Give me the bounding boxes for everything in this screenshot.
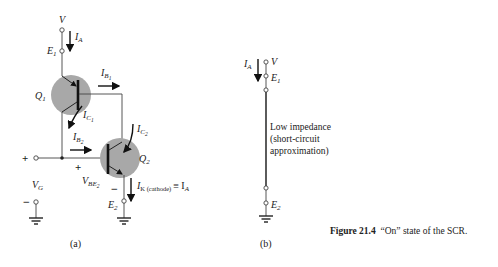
figure-number: Figure 21.4 [330, 226, 376, 236]
q2-transistor-shading [100, 138, 140, 178]
gate-terminal [34, 156, 38, 160]
ic1-label: IC1 [82, 109, 94, 123]
anode-current-label: IA [243, 58, 252, 71]
ground-icon [117, 218, 131, 224]
ib2-label: IB2 [72, 131, 84, 145]
vbe2-label: VBE2 [82, 175, 100, 189]
short-circuit-bottom-node [264, 186, 268, 190]
panel-b-label: (b) [260, 238, 272, 250]
e2-terminal [122, 199, 126, 203]
cathode-current-label: IK (cathode)≡ IA [136, 180, 190, 193]
e2-label: E2 [107, 199, 118, 212]
supply-label: V [59, 14, 67, 25]
gate-return-terminal [34, 200, 38, 204]
ground-icon [29, 218, 43, 224]
figure-caption: Figure 21.4 “On” state of the SCR. [330, 226, 490, 237]
e1-label: E1 [270, 72, 281, 85]
e1-terminal [264, 74, 268, 78]
impedance-note-line-3: approximation) [270, 146, 329, 157]
panel-a: V E1 IA Q1 IB1 IC1 IB2 + VG − [22, 14, 190, 250]
e2-terminal [264, 201, 268, 205]
supply-terminal [264, 60, 268, 64]
figure-title: “On” state of the SCR. [381, 226, 468, 236]
vbe2-minus-sign: − [111, 182, 118, 196]
e1-label: E1 [46, 45, 57, 58]
vbe2-plus-sign: + [75, 161, 81, 173]
junction-node [60, 156, 64, 160]
vg-label: VG [32, 179, 43, 192]
supply-label: V [271, 56, 279, 67]
panel-b: IA V E1 Low impedance (short-circuit app… [243, 56, 331, 250]
gate-plus-sign: + [22, 152, 28, 164]
ib1-label: IB1 [100, 67, 112, 81]
supply-terminal [60, 28, 64, 32]
e1-terminal [60, 49, 64, 53]
anode-current-label: IA [74, 31, 83, 44]
panel-a-label: (a) [70, 238, 81, 250]
ic2-label: IC2 [136, 123, 148, 137]
ground-icon [259, 216, 273, 222]
q2-label: Q2 [139, 153, 150, 166]
q1-label: Q1 [35, 90, 46, 103]
gate-minus-sign: − [23, 195, 30, 209]
e2-label: E2 [270, 199, 281, 212]
short-circuit-top-node [264, 88, 268, 92]
impedance-note-line-2: (short-circuit [270, 134, 320, 145]
impedance-note-line-1: Low impedance [270, 122, 331, 132]
